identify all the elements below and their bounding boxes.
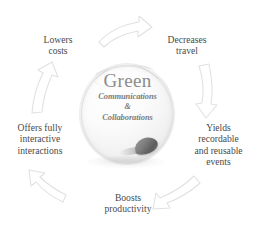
- benefit-label-yields-events: Yields recordable and reusable events: [182, 122, 255, 168]
- benefit-line: Yields: [182, 122, 255, 133]
- benefit-label-decreases-travel: Decreases travel: [150, 34, 224, 57]
- arrow-left-icon: [32, 62, 58, 113]
- benefit-line: Boosts: [86, 192, 170, 203]
- benefit-line: and reusable: [182, 145, 255, 156]
- benefit-line: productivity: [86, 203, 170, 214]
- arrow-right-icon: [196, 64, 217, 118]
- arrow-top-icon: [99, 16, 152, 47]
- green-communications-cycle-diagram: Green Communications & Collaborations Lo…: [0, 0, 255, 238]
- benefit-line: events: [182, 156, 255, 167]
- sphere-shadow: [87, 156, 165, 168]
- benefit-line: costs: [27, 45, 89, 56]
- benefit-line: travel: [150, 45, 224, 56]
- benefit-label-lowers-costs: Lowers costs: [27, 34, 89, 57]
- sphere-highlight-arc: [129, 74, 173, 146]
- benefit-line: interactive: [3, 133, 77, 144]
- arrow-bottom-left-icon: [29, 170, 66, 202]
- benefit-label-boosts-productivity: Boosts productivity: [86, 192, 170, 215]
- benefit-label-offers-interactive: Offers fully interactive interactions: [3, 122, 77, 156]
- benefit-line: interactions: [3, 145, 77, 156]
- benefit-line: Offers fully: [3, 122, 77, 133]
- center-sphere: Green Communications & Collaborations: [79, 60, 176, 171]
- benefit-line: recordable: [182, 133, 255, 144]
- benefit-line: Decreases: [150, 34, 224, 45]
- benefit-line: Lowers: [27, 34, 89, 45]
